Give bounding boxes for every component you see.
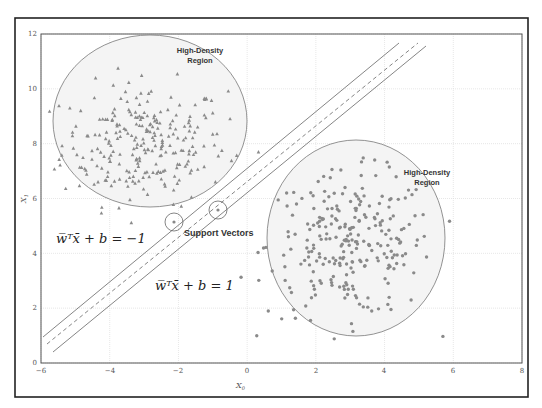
circle-point bbox=[394, 175, 397, 178]
circle-point bbox=[363, 265, 366, 268]
circle-point bbox=[299, 262, 302, 265]
circle-point bbox=[307, 250, 310, 253]
y-tick: 2 bbox=[33, 304, 37, 312]
circle-point bbox=[333, 192, 336, 195]
circle-point bbox=[320, 217, 323, 220]
circle-point bbox=[324, 225, 327, 228]
circle-point bbox=[389, 217, 392, 220]
circle-point bbox=[379, 244, 382, 247]
circle-point bbox=[312, 223, 315, 226]
circle-point bbox=[328, 237, 331, 240]
circle-point bbox=[344, 281, 347, 284]
region-label-right-line1: High-Density bbox=[404, 168, 451, 177]
circle-point bbox=[362, 240, 365, 243]
circle-point bbox=[341, 243, 344, 246]
circle-point bbox=[330, 284, 333, 287]
x-tick: −6 bbox=[36, 367, 47, 375]
circle-point bbox=[327, 195, 330, 198]
circle-point bbox=[330, 207, 333, 210]
circle-point bbox=[322, 175, 325, 178]
circle-point bbox=[323, 190, 326, 193]
circle-point bbox=[387, 296, 390, 299]
circle-point bbox=[339, 225, 342, 228]
support-vectors-label: Support Vectors bbox=[184, 228, 254, 238]
y-tick: 10 bbox=[28, 85, 37, 93]
circle-point bbox=[390, 250, 393, 253]
circle-point bbox=[385, 256, 388, 259]
circle-point bbox=[388, 198, 391, 201]
circle-point bbox=[374, 224, 377, 227]
circle-point bbox=[287, 235, 290, 238]
circle-point bbox=[383, 277, 386, 280]
circle-point bbox=[305, 246, 308, 249]
circle-point bbox=[352, 288, 355, 291]
circle-point bbox=[257, 279, 260, 282]
circle-point bbox=[368, 244, 371, 247]
circle-point bbox=[322, 200, 325, 203]
circle-point bbox=[343, 225, 346, 228]
x-tick: 2 bbox=[314, 367, 318, 375]
x-tick: 8 bbox=[520, 367, 524, 375]
circle-point bbox=[376, 256, 379, 259]
circle-point bbox=[309, 191, 312, 194]
circle-point bbox=[423, 235, 426, 238]
y-tick: 12 bbox=[28, 30, 37, 38]
circle-point bbox=[312, 243, 315, 246]
circle-point bbox=[344, 239, 347, 242]
circle-point bbox=[312, 207, 315, 210]
circle-point bbox=[324, 237, 327, 240]
circle-point bbox=[345, 262, 348, 265]
circle-point bbox=[310, 250, 313, 253]
circle-point bbox=[355, 194, 358, 197]
circle-point bbox=[392, 214, 395, 217]
circle-point bbox=[343, 296, 346, 299]
circle-point bbox=[318, 220, 321, 223]
circle-point bbox=[329, 176, 332, 179]
circle-point bbox=[391, 256, 394, 259]
circle-point bbox=[342, 284, 345, 287]
circle-point bbox=[343, 186, 346, 189]
circle-point bbox=[376, 212, 379, 215]
circle-point bbox=[262, 246, 265, 249]
circle-point bbox=[350, 260, 353, 263]
circle-point bbox=[318, 225, 321, 228]
circle-point bbox=[255, 334, 258, 337]
circle-point bbox=[362, 156, 365, 159]
circle-point bbox=[325, 232, 328, 235]
circle-point bbox=[409, 298, 412, 301]
circle-point bbox=[312, 247, 315, 250]
circle-point bbox=[416, 238, 419, 241]
circle-point bbox=[448, 220, 451, 223]
circle-point bbox=[330, 168, 333, 171]
circle-point bbox=[320, 282, 323, 285]
circle-point bbox=[385, 160, 388, 163]
circle-point bbox=[392, 267, 395, 270]
circle-point bbox=[414, 188, 417, 191]
circle-point bbox=[343, 288, 346, 291]
circle-point bbox=[412, 271, 415, 274]
circle-point bbox=[401, 254, 404, 257]
circle-point bbox=[402, 263, 405, 266]
region-label-top-line1: High-Density bbox=[177, 46, 224, 55]
circle-point bbox=[239, 276, 242, 279]
circle-point bbox=[377, 259, 380, 262]
circle-point bbox=[373, 158, 376, 161]
circle-point bbox=[342, 250, 345, 253]
circle-point bbox=[359, 260, 362, 263]
circle-point bbox=[322, 263, 325, 266]
circle-point bbox=[300, 197, 303, 200]
circle-point bbox=[292, 191, 295, 194]
circle-point bbox=[326, 207, 329, 210]
circle-point bbox=[395, 262, 398, 265]
circle-point bbox=[351, 284, 354, 287]
circle-point bbox=[378, 221, 381, 224]
circle-point bbox=[410, 193, 413, 196]
y-tick: 8 bbox=[33, 140, 37, 148]
circle-point bbox=[285, 191, 288, 194]
circle-point bbox=[309, 319, 312, 322]
circle-point bbox=[402, 227, 405, 230]
x-tick: 0 bbox=[245, 367, 249, 375]
support-vector-point-1 bbox=[172, 220, 175, 223]
circle-point bbox=[366, 296, 369, 299]
x-tick: −2 bbox=[173, 367, 183, 375]
